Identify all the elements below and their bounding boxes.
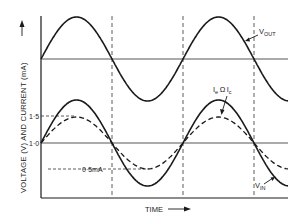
vout-pointer-arrow-icon <box>245 38 250 42</box>
waveform-chart: VOLTAGE (V) AND CURRENT (mA) 1·5 1·0 0·5… <box>0 0 306 224</box>
ie-ic-pointer <box>222 96 227 112</box>
ie-ic-pointer-arrow-icon <box>220 109 225 115</box>
vin-label: VIN <box>255 181 266 191</box>
vout-label: VOUT <box>259 27 276 37</box>
y-axis-label: VOLTAGE (V) AND CURRENT (mA) <box>19 62 28 193</box>
annotation-0-5ma: 0·5mA <box>82 166 103 173</box>
x-axis-label: TIME <box>145 205 163 214</box>
y-axis-arrow-icon <box>20 20 25 27</box>
tick-1-0: 1·0 <box>29 140 39 147</box>
ie-ic-label: IeΩIc <box>213 85 232 95</box>
tick-1-5: 1·5 <box>29 113 39 120</box>
x-axis-arrow-icon <box>184 207 191 212</box>
